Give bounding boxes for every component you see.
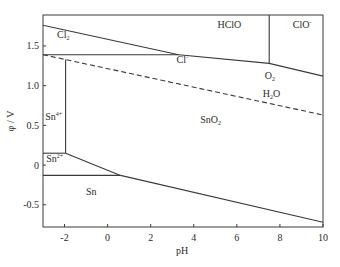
region-labels: Cl2HClOClO-Cl-O2H2OSn4+SnO2Sn2+Sn: [45, 19, 311, 197]
y-tick-label: 0: [34, 160, 39, 171]
x-tick-label: 0: [105, 232, 110, 243]
x-tick-label: 10: [318, 232, 328, 243]
region-label: Sn2+: [46, 153, 64, 164]
y-tick-label: -0.5: [23, 199, 39, 210]
x-tick-label: 8: [277, 232, 282, 243]
y-tick-label: 0.5: [27, 120, 40, 131]
x-tick-label: 2: [148, 232, 153, 243]
region-label: Sn4+: [45, 111, 63, 122]
boundary-line: [66, 153, 121, 175]
pourbaix-diagram: -20246810 -0.500.51.01.5 Cl2HClOClO-Cl-O…: [0, 0, 340, 267]
x-axis-title: pH: [176, 245, 188, 256]
region-label: O2: [265, 70, 275, 82]
x-tick-label: 4: [191, 232, 196, 243]
x-tick-label: -2: [60, 232, 68, 243]
region-label: SnO2: [200, 114, 221, 126]
region-label: ClO-: [293, 19, 312, 30]
y-axis-title: φ / V: [5, 110, 16, 132]
boundary-line: [121, 175, 324, 222]
plot-frame: [43, 15, 323, 227]
region-label: Cl-: [177, 54, 188, 65]
region-label: HClO: [217, 19, 241, 30]
y-tick-label: 1.5: [27, 40, 40, 51]
region-label: H2O: [263, 88, 280, 100]
region-label: Sn: [86, 186, 97, 197]
boundary-lines: [43, 15, 323, 222]
boundary-line: [179, 55, 323, 76]
y-tick-label: 1.0: [27, 80, 40, 91]
x-tick-label: 6: [234, 232, 239, 243]
